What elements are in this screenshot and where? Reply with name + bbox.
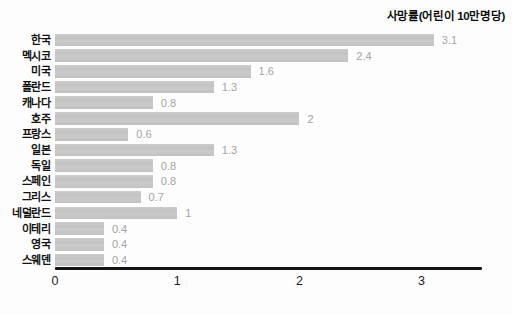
bar-row: 멕시코2.4: [0, 49, 512, 65]
x-axis-ticks: 0123: [0, 274, 512, 290]
bar-row: 이테리0.4: [0, 222, 512, 238]
category-label: 그리스: [0, 190, 50, 206]
value-label: 0.8: [161, 96, 176, 112]
category-label: 스웨덴: [0, 253, 50, 269]
bar: [55, 49, 348, 62]
x-tick-label: 2: [284, 274, 314, 288]
value-label: 2: [307, 112, 313, 128]
category-label: 멕시코: [0, 49, 50, 65]
bar-row: 스페인0.8: [0, 174, 512, 190]
value-label: 1.3: [222, 80, 237, 96]
category-label: 미국: [0, 64, 50, 80]
bar: [55, 65, 251, 78]
bar-row: 프랑스0.6: [0, 127, 512, 143]
value-label: 0.4: [112, 222, 127, 238]
bar: [55, 159, 153, 172]
value-label: 0.7: [149, 190, 164, 206]
bar-row: 일본1.3: [0, 143, 512, 159]
bar-row: 그리스0.7: [0, 190, 512, 206]
category-label: 한국: [0, 33, 50, 49]
x-tick-label: 3: [407, 274, 437, 288]
bar: [55, 191, 141, 204]
x-tick-label: 1: [162, 274, 192, 288]
bar-row: 영국0.4: [0, 237, 512, 253]
category-label: 독일: [0, 159, 50, 175]
bar-row: 미국1.6: [0, 64, 512, 80]
value-label: 1.6: [259, 64, 274, 80]
bar: [55, 112, 299, 125]
bar: [55, 96, 153, 109]
value-label: 0.8: [161, 159, 176, 175]
bar: [55, 144, 214, 157]
category-label: 프랑스: [0, 127, 50, 143]
bar: [55, 238, 104, 251]
category-label: 폴란드: [0, 80, 50, 96]
bar-row: 호주2: [0, 112, 512, 128]
category-label: 영국: [0, 237, 50, 253]
category-label: 호주: [0, 112, 50, 128]
category-label: 일본: [0, 143, 50, 159]
value-label: 0.4: [112, 237, 127, 253]
category-label: 캐나다: [0, 96, 50, 112]
chart-title: 사망률(어린이 10만명당): [387, 7, 505, 23]
category-label: 스페인: [0, 174, 50, 190]
x-axis-line: [55, 267, 482, 270]
x-tick-label: 0: [40, 274, 70, 288]
bar: [55, 222, 104, 235]
value-label: 0.8: [161, 174, 176, 190]
chart-container: 사망률(어린이 10만명당) 한국3.1멕시코2.4미국1.6폴란드1.3캐나다…: [0, 0, 512, 315]
value-label: 3.1: [442, 33, 457, 49]
value-label: 2.4: [356, 49, 371, 65]
bar-row: 폴란드1.3: [0, 80, 512, 96]
value-label: 1.3: [222, 143, 237, 159]
bar-row: 캐나다0.8: [0, 96, 512, 112]
bar: [55, 207, 177, 220]
bar: [55, 175, 153, 188]
bar: [55, 128, 128, 141]
category-label: 이테리: [0, 222, 50, 238]
value-label: 0.6: [136, 127, 151, 143]
bar-row: 독일0.8: [0, 159, 512, 175]
bar: [55, 81, 214, 94]
bar: [55, 254, 104, 267]
category-label: 네덜란드: [0, 206, 50, 222]
bar-row: 네덜란드1: [0, 206, 512, 222]
bar: [55, 34, 434, 47]
value-label: 1: [185, 206, 191, 222]
bar-rows: 한국3.1멕시코2.4미국1.6폴란드1.3캐나다0.8호주2프랑스0.6일본1…: [0, 33, 512, 269]
bar-row: 한국3.1: [0, 33, 512, 49]
